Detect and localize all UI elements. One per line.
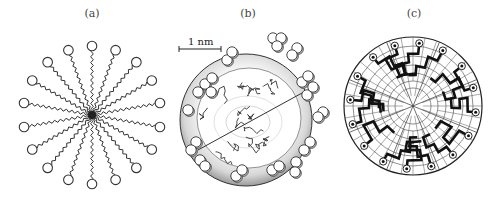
- head-group-circle: [43, 163, 53, 173]
- head-group-ring: [470, 84, 477, 91]
- surfactant-chain: [64, 115, 92, 185]
- head-group-circle: [147, 76, 157, 86]
- head-group-circle: [87, 179, 97, 189]
- panel-c: (c): [335, 0, 502, 199]
- head-group-circle: [87, 41, 97, 51]
- head-group-circle: [27, 145, 37, 155]
- head-group-circle: [27, 76, 37, 86]
- head-group-circle: [155, 122, 165, 132]
- head-group-circle: [19, 122, 29, 132]
- head-group-circle: [183, 105, 193, 115]
- head-group-ring: [349, 121, 356, 128]
- surfactant-chain: [92, 115, 121, 185]
- head-group-circle: [308, 82, 318, 92]
- head-group-circle: [207, 73, 217, 83]
- micelle-core: [88, 111, 96, 119]
- head-group-ring: [472, 109, 479, 116]
- head-group-circle: [200, 161, 210, 171]
- head-group-circle: [43, 57, 53, 67]
- panel-b: (b) 1 nm: [165, 0, 340, 199]
- head-group-circle: [186, 145, 196, 155]
- head-group-circle: [303, 71, 313, 81]
- head-group-circle: [155, 98, 165, 108]
- head-group-ring: [458, 63, 465, 70]
- head-group-ring: [391, 42, 398, 49]
- head-group-ring: [465, 132, 472, 139]
- surfactant-chain: [92, 45, 120, 115]
- head-group-circle: [64, 175, 74, 185]
- head-group-ring: [361, 142, 368, 149]
- head-group-ring: [403, 165, 410, 172]
- head-group-circle: [290, 167, 300, 177]
- micelle-cross-section-c: [335, 0, 502, 199]
- head-group-circle: [291, 157, 301, 167]
- polar-grid: [344, 37, 482, 175]
- head-group-circle: [111, 175, 121, 185]
- surfactant-chain: [19, 98, 92, 115]
- head-group-ring: [439, 47, 446, 54]
- head-group-ring: [370, 54, 377, 61]
- surfactant-chain: [43, 57, 92, 115]
- head-group-ring: [449, 151, 456, 158]
- head-group-circle: [132, 163, 142, 173]
- head-group-circle: [274, 161, 284, 171]
- surfactant-chain: [64, 45, 93, 115]
- head-group-circle: [206, 87, 216, 97]
- head-group-circle: [237, 165, 247, 175]
- panel-a: (a): [0, 0, 170, 199]
- surfactant-chain: [92, 115, 141, 173]
- head-group-circle: [19, 98, 29, 108]
- micelle-schematic-a: [0, 0, 170, 199]
- head-group-circle: [111, 45, 121, 55]
- micelle-cutaway-sphere-b: [165, 0, 340, 199]
- head-group-circle: [272, 41, 282, 51]
- head-group-ring: [380, 158, 387, 165]
- head-group-ring: [354, 73, 361, 80]
- head-group-circle: [132, 57, 142, 67]
- head-group-circle: [299, 145, 309, 155]
- scale-bar-label: 1 nm: [188, 36, 213, 47]
- head-group-ring: [428, 163, 435, 170]
- head-group-circle: [227, 47, 237, 57]
- surfactant-chain: [92, 76, 157, 115]
- surfactant-chain: [27, 115, 92, 154]
- head-group-ring: [347, 96, 354, 103]
- head-group-circle: [64, 45, 74, 55]
- head-group-circle: [147, 145, 157, 155]
- surfactant-chain: [92, 115, 165, 132]
- head-group-circle: [287, 50, 297, 60]
- head-group-circle: [313, 112, 323, 122]
- head-group-ring: [416, 40, 423, 47]
- head-group-circle: [193, 87, 203, 97]
- surfactant-chain: [92, 57, 141, 115]
- surfactant-chain: [43, 115, 92, 173]
